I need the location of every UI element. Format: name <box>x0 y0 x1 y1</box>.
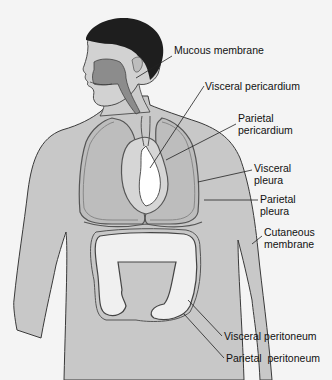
label-text: Parietal peritoneum <box>226 352 320 364</box>
label-parietal-pericardium: Parietalpericardium <box>238 112 293 136</box>
label-visceral-peritoneum: Visceral peritoneum <box>224 330 317 342</box>
label-visceral-pericardium: Visceral pericardium <box>205 80 300 92</box>
label-text: pleura <box>254 174 291 186</box>
label-text: Parietal <box>238 112 293 124</box>
anatomy-illustration <box>0 0 332 380</box>
label-text: Parietal <box>260 193 296 205</box>
label-visceral-pleura: Visceralpleura <box>254 162 291 186</box>
label-parietal-peritoneum: Parietal peritoneum <box>226 352 320 364</box>
label-text: Cutaneous <box>264 226 315 238</box>
label-parietal-pleura: Parietalpleura <box>260 193 296 217</box>
label-cutaneous-membrane: Cutaneousmembrane <box>264 226 315 250</box>
body-membranes-diagram: Mucous membrane Visceral pericardium Par… <box>0 0 332 380</box>
label-text: Visceral peritoneum <box>224 330 317 342</box>
label-text: pericardium <box>238 124 293 136</box>
label-text: Visceral pericardium <box>205 80 300 92</box>
label-text: pleura <box>260 205 296 217</box>
label-text: Mucous membrane <box>174 44 264 56</box>
label-text: membrane <box>264 238 315 250</box>
label-text: Visceral <box>254 162 291 174</box>
label-mucous-membrane: Mucous membrane <box>174 44 264 56</box>
